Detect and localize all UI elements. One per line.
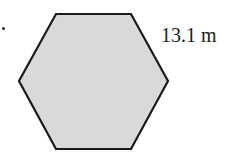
hexagon-shape: [19, 14, 168, 149]
side-length-label: 13.1 m: [161, 25, 217, 45]
